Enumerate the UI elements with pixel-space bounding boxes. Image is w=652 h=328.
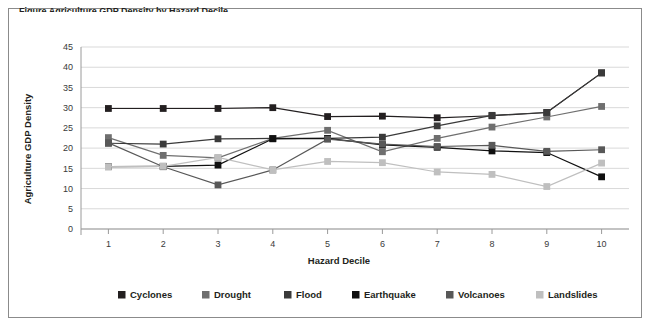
data-point-marker [434,114,441,121]
legend-label: Cyclones [130,289,172,300]
data-point-marker [324,136,331,143]
x-tick-label: 8 [489,239,494,249]
x-tick-label: 10 [597,239,607,249]
data-point-marker [598,160,605,167]
y-tick-label: 40 [63,62,73,72]
data-point-marker [105,105,112,112]
figure-frame: Figure Agriculture GDP Density by Hazard… [8,8,642,318]
data-point-marker [434,122,441,129]
legend-item-landslides[interactable]: Landslides [536,289,598,300]
data-point-marker [324,158,331,165]
x-tick-label: 9 [544,239,549,249]
data-point-marker [379,148,386,155]
x-tick-label: 2 [161,239,166,249]
data-point-marker [379,113,386,120]
y-tick-label: 20 [63,143,73,153]
data-point-marker [215,105,222,112]
data-point-marker [160,105,167,112]
data-point-marker [489,171,496,178]
data-point-marker [379,141,386,148]
legend-item-earthquake[interactable]: Earthquake [352,289,416,300]
data-point-marker [215,154,222,161]
series-line [108,157,601,186]
data-point-marker [543,183,550,190]
y-tick-labels: 051015202530354045 [63,42,73,234]
data-point-marker [215,162,222,169]
data-point-marker [215,182,222,189]
data-point-marker [434,169,441,176]
y-tick-label: 30 [63,103,73,113]
data-point-marker [598,146,605,153]
y-tick-label: 15 [63,164,73,174]
y-tick-label: 35 [63,83,73,93]
y-tick-label: 45 [63,42,73,52]
data-point-marker [598,173,605,180]
legend-label: Drought [214,289,252,300]
data-point-marker [434,143,441,150]
x-tick-label: 7 [435,239,440,249]
data-point-marker [215,135,222,142]
y-tick-label: 0 [68,224,73,234]
x-tick-label: 4 [270,239,275,249]
data-point-marker [489,142,496,149]
data-point-marker [105,163,112,170]
legend-swatch-icon [446,291,454,299]
series-line [108,73,601,118]
legend-swatch-icon [536,291,544,299]
legend-item-volcanoes[interactable]: Volcanoes [446,289,505,300]
data-point-marker [160,141,167,148]
data-point-marker [543,109,550,116]
data-point-marker [489,112,496,119]
chart-canvas: 051015202530354045 12345678910 Agricultu… [9,9,643,319]
data-point-marker [379,159,386,166]
legend-item-cyclones[interactable]: Cyclones [118,289,172,300]
data-point-marker [379,134,386,141]
data-point-marker [105,139,112,146]
legend-item-drought[interactable]: Drought [202,289,252,300]
data-point-marker [434,135,441,142]
line-chart: 051015202530354045 12345678910 Agricultu… [9,9,643,319]
x-tick-label: 3 [215,239,220,249]
data-point-marker [489,124,496,131]
legend-label: Landslides [548,289,598,300]
legend-swatch-icon [284,291,292,299]
y-tick-label: 5 [68,204,73,214]
data-point-marker [598,69,605,76]
legend-label: Volcanoes [458,289,505,300]
y-tick-label: 10 [63,184,73,194]
data-point-marker [269,167,276,174]
chart-legend: CyclonesDroughtFloodEarthquakeVolcanoesL… [118,289,598,300]
x-tick-label: 1 [106,239,111,249]
data-point-marker [324,127,331,134]
data-point-marker [598,103,605,110]
legend-swatch-icon [202,291,210,299]
legend-label: Flood [296,289,322,300]
x-tick-label: 5 [325,239,330,249]
x-axis-title: Hazard Decile [308,255,370,266]
legend-item-flood[interactable]: Flood [284,289,322,300]
data-point-marker [160,152,167,159]
data-point-marker [269,135,276,142]
data-point-marker [324,113,331,120]
legend-swatch-icon [118,291,126,299]
data-point-marker [269,104,276,111]
legend-swatch-icon [352,291,360,299]
y-axis-title: Agriculture GDP Density [22,93,33,204]
x-tick-label: 6 [380,239,385,249]
y-tick-label: 25 [63,123,73,133]
data-point-marker [543,148,550,155]
data-point-marker [160,163,167,170]
legend-label: Earthquake [364,289,416,300]
series-line [108,138,601,176]
x-tick-labels: 12345678910 [106,239,607,249]
